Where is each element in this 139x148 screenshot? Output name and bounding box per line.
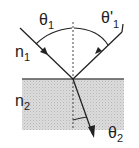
- label-theta1-reflected: θ'1: [101, 9, 119, 30]
- label-theta1: θ1: [39, 11, 54, 31]
- refracted-arrow-icon: [88, 125, 95, 138]
- angle-arc-theta1-reflected: [74, 28, 108, 45]
- label-n1: n1: [15, 43, 30, 63]
- refraction-diagram: θ1 θ'1 n1 n2 θ2: [0, 0, 139, 148]
- reflected-ray-tail: [122, 24, 123, 32]
- reflected-ray: [73, 32, 122, 79]
